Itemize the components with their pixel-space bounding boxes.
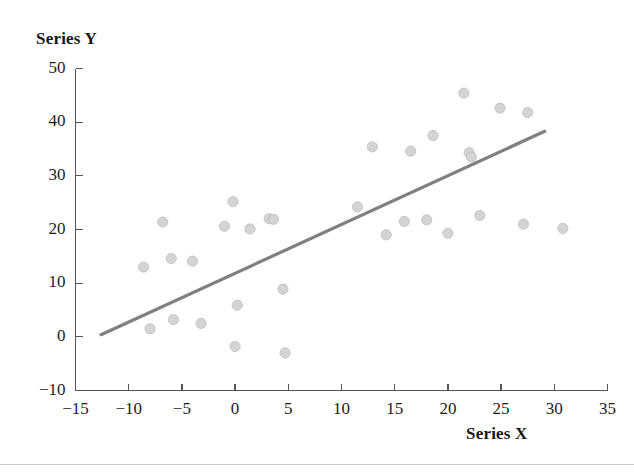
scatter-chart-figure: Series Y Series X −1001020304050 −15−10−… — [0, 0, 634, 474]
y-tick-label-10: 10 — [22, 272, 66, 292]
data-point — [381, 230, 391, 240]
data-point — [518, 219, 528, 229]
x-tick-label-5: 5 — [268, 399, 308, 419]
x-tick-label-0: 0 — [215, 399, 255, 419]
data-point — [232, 300, 242, 310]
y-tick-label-40: 40 — [22, 111, 66, 131]
data-point — [352, 202, 362, 212]
data-point — [428, 130, 438, 140]
x-tick-label-15: 15 — [375, 399, 415, 419]
x-tick-label-30: 30 — [534, 399, 574, 419]
data-point — [268, 214, 278, 224]
data-point — [196, 318, 206, 328]
x-tick-label--5: −5 — [162, 399, 202, 419]
data-point — [443, 228, 453, 238]
data-point — [475, 210, 485, 220]
data-point — [523, 107, 533, 117]
data-point — [168, 315, 178, 325]
data-point — [245, 224, 255, 234]
x-tick-label-10: 10 — [322, 399, 362, 419]
data-point — [138, 262, 148, 272]
y-tick-label-50: 50 — [22, 58, 66, 78]
data-point — [278, 284, 288, 294]
data-point — [367, 142, 377, 152]
x-tick-label--15: −15 — [56, 399, 96, 419]
trendline — [101, 131, 545, 334]
data-point — [187, 256, 197, 266]
y-tick-label-30: 30 — [22, 165, 66, 185]
data-points — [138, 88, 567, 358]
data-point — [228, 196, 238, 206]
trendline-path — [101, 131, 545, 334]
x-tick-label-25: 25 — [481, 399, 521, 419]
data-point — [280, 348, 290, 358]
y-tick-label--10: −10 — [22, 380, 66, 400]
data-point — [158, 217, 168, 227]
data-point — [399, 216, 409, 226]
data-point — [422, 215, 432, 225]
data-point — [230, 341, 240, 351]
data-point — [406, 146, 416, 156]
data-point — [145, 324, 155, 334]
data-point — [219, 221, 229, 231]
data-point — [166, 253, 176, 263]
data-point — [495, 103, 505, 113]
footer-divider — [0, 464, 634, 465]
x-tick-label-20: 20 — [428, 399, 468, 419]
y-tick-label-0: 0 — [22, 326, 66, 346]
x-tick-label--10: −10 — [109, 399, 149, 419]
data-point — [466, 152, 476, 162]
data-point — [558, 223, 568, 233]
y-tick-label-20: 20 — [22, 219, 66, 239]
x-tick-label-35: 35 — [588, 399, 628, 419]
data-point — [459, 88, 469, 98]
